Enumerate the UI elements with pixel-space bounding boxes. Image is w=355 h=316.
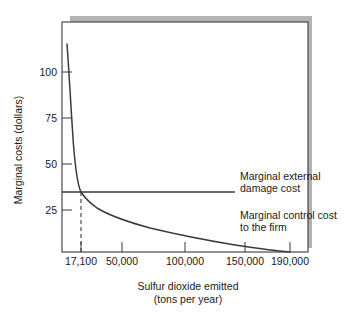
- x-axis-tick-labels: 17,100 50,000 100,000 150,000 190,000: [65, 255, 309, 267]
- x-tick-label: 150,000: [226, 255, 264, 267]
- x-axis-title: Sulfur dioxide emitted: [138, 280, 239, 292]
- x-axis-subtitle: (tons per year): [154, 293, 222, 305]
- y-tick-label: 75: [45, 112, 57, 124]
- x-tick-label: 50,000: [106, 255, 138, 267]
- y-tick-label: 25: [45, 204, 57, 216]
- x-tick-label: 17,100: [65, 255, 97, 267]
- annotation-line: Marginal control cost: [240, 209, 337, 221]
- x-tick-label: 190,000: [271, 255, 309, 267]
- x-tick-label: 100,000: [166, 255, 204, 267]
- annotation-line: to the firm: [240, 221, 287, 233]
- annotation-line: Marginal external: [240, 170, 321, 182]
- marginal-cost-chart: 25 50 75 100 17,100 50,000 100,000 150,0…: [0, 0, 355, 316]
- chart-figure: 25 50 75 100 17,100 50,000 100,000 150,0…: [0, 0, 355, 316]
- y-axis-tick-labels: 25 50 75 100: [39, 66, 57, 216]
- y-tick-label: 50: [45, 158, 57, 170]
- annotation-line: damage cost: [240, 182, 300, 194]
- y-axis-title: Marginal costs (dollars): [12, 96, 24, 205]
- y-tick-label: 100: [39, 66, 57, 78]
